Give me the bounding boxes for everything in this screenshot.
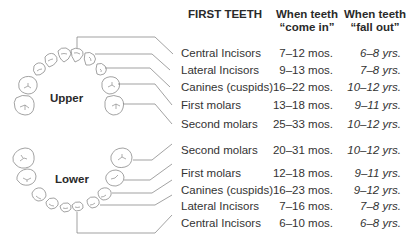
come-in-header-line2: “come in”: [276, 21, 338, 34]
table-row: First molars 12–18 mos. 9–11 yrs.: [0, 166, 419, 180]
table-row: Lateral Incisors 9–13 mos. 7–8 yrs.: [0, 63, 419, 77]
come-in-value: 16–22 mos.: [273, 80, 333, 94]
table-row: Second molars 25–33 mos. 10–12 yrs.: [0, 117, 419, 131]
come-in-value: 20–31 mos.: [273, 143, 333, 157]
come-in-value: 12–18 mos.: [273, 166, 333, 180]
table-row: Canines (cuspids) 16–22 mos. 10–12 yrs.: [0, 80, 419, 94]
first-teeth-header: FIRST TEETH: [188, 8, 262, 21]
tooth-name: Canines (cuspids): [181, 80, 273, 94]
fall-out-value: 6–8 yrs.: [360, 46, 401, 60]
fall-out-value: 7–8 yrs.: [360, 63, 401, 77]
fall-out-header: When teeth “fall out”: [340, 8, 410, 34]
tooth-name: Second molars: [181, 143, 258, 157]
table-row: Central Incisors 7–12 mos. 6–8 yrs.: [0, 46, 419, 60]
table-row: Lateral Incisors 7–16 mos. 7–8 yrs.: [0, 199, 419, 213]
fall-out-value: 7–8 yrs.: [360, 199, 401, 213]
come-in-value: 16–23 mos.: [273, 183, 333, 197]
fall-out-value: 10–12 yrs.: [347, 80, 401, 94]
come-in-header-line1: When teeth: [276, 8, 338, 21]
tooth-name: Central Incisors: [181, 216, 261, 230]
come-in-value: 7–16 mos.: [279, 199, 333, 213]
fall-out-value: 6–8 yrs.: [360, 216, 401, 230]
come-in-header: When teeth “come in”: [276, 8, 338, 34]
come-in-value: 25–33 mos.: [273, 117, 333, 131]
tooth-name: Second molars: [181, 117, 258, 131]
table-row: First molars 13–18 mos. 9–11 yrs.: [0, 98, 419, 112]
come-in-value: 6–10 mos.: [279, 216, 333, 230]
fall-out-value: 9–11 yrs.: [355, 166, 401, 180]
come-in-value: 13–18 mos.: [273, 98, 333, 112]
come-in-value: 7–12 mos.: [279, 46, 333, 60]
fall-out-header-line2: “fall out”: [340, 21, 410, 34]
fall-out-value: 9–11 yrs.: [355, 98, 401, 112]
tooth-name: Lateral Incisors: [181, 63, 259, 77]
baby-teeth-chart: Upper Lower FIRST TEETH When teeth “come…: [0, 0, 419, 242]
fall-out-value: 10–12 yrs.: [347, 143, 401, 157]
tooth-name: Canines (cuspids): [181, 183, 273, 197]
fall-out-header-line1: When teeth: [340, 8, 410, 21]
fall-out-value: 9–12 yrs.: [354, 183, 401, 197]
come-in-value: 9–13 mos.: [279, 63, 333, 77]
tooth-name: First molars: [181, 98, 241, 112]
fall-out-value: 10–12 yrs.: [347, 117, 401, 131]
table-row: Central Incisors 6–10 mos. 6–8 yrs.: [0, 216, 419, 230]
tooth-name: Central Incisors: [181, 46, 261, 60]
table-row: Canines (cuspids) 16–23 mos. 9–12 yrs.: [0, 183, 419, 197]
tooth-name: Lateral Incisors: [181, 199, 259, 213]
tooth-name: First molars: [181, 166, 241, 180]
table-row: Second molars 20–31 mos. 10–12 yrs.: [0, 143, 419, 157]
